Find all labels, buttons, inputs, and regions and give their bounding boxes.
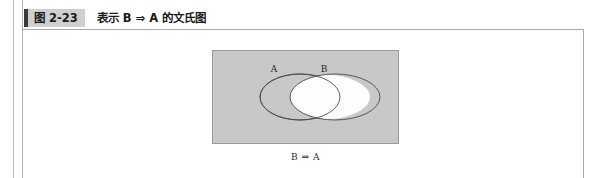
figure-number-band: 图 2-23	[24, 9, 85, 27]
venn-relation-label: B ⇒ A	[212, 152, 399, 162]
figure-number-label: 图 2-23	[34, 9, 78, 27]
page-right-rule	[583, 29, 584, 178]
figure-page: 图 2-23 表示 B ⇒ A 的文氏图 A B B ⇒ A	[0, 0, 599, 178]
venn-diagram: A B	[212, 50, 399, 144]
caption-underline-rule	[23, 29, 584, 30]
page-left-inner-rule	[22, 0, 23, 178]
venn-diagram-svg: A B	[212, 50, 399, 144]
venn-set-a-label: A	[270, 64, 278, 74]
figure-caption-title: 表示 B ⇒ A 的文氏图	[97, 9, 206, 27]
figure-marker-bar	[24, 9, 28, 27]
page-left-outer-rule	[13, 0, 14, 178]
figure-caption: 图 2-23 表示 B ⇒ A 的文氏图	[24, 9, 206, 27]
venn-set-b-label: B	[321, 64, 328, 74]
